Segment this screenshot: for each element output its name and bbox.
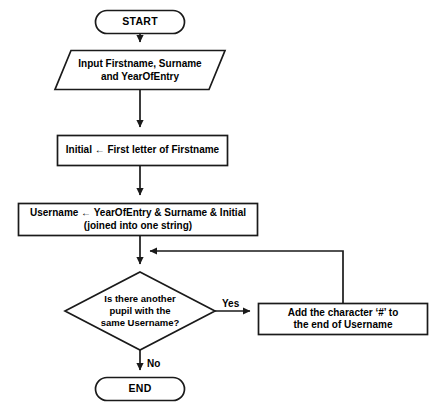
node-initial-shape: [58, 136, 228, 166]
edge-label-yes: Yes: [222, 298, 239, 309]
node-decision-shape: [65, 272, 215, 350]
flowchart-diagram: START Input Firstname, Surname and YearO…: [0, 0, 442, 414]
node-start-shape: [96, 11, 185, 34]
node-append-shape: [259, 304, 428, 335]
node-end-shape: [96, 378, 185, 401]
edge-label-no: No: [147, 358, 160, 369]
node-input-shape: [55, 51, 225, 90]
flowchart-canvas: [0, 0, 442, 414]
node-username-shape: [19, 204, 258, 236]
